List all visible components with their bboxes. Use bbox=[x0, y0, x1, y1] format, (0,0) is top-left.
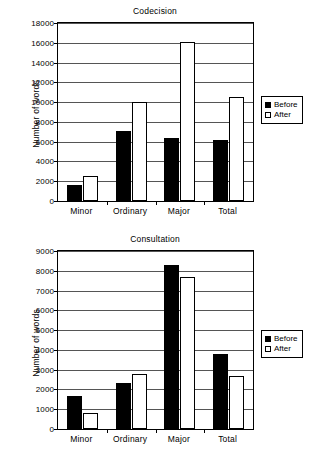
y-tick-label: 6000 bbox=[36, 306, 54, 315]
plot-area-consultation: 0100020003000400050006000700080009000 bbox=[57, 250, 254, 430]
bar-group bbox=[116, 251, 147, 429]
bar-after-total bbox=[229, 376, 244, 429]
bar-before-minor bbox=[67, 185, 82, 201]
legend-codecision: Before After bbox=[261, 96, 303, 124]
x-tick-label: Minor bbox=[70, 434, 92, 444]
legend-item-after: After bbox=[265, 344, 298, 354]
legend-consultation: Before After bbox=[261, 330, 303, 358]
bar-after-minor bbox=[83, 176, 98, 201]
x-tick-label: Total bbox=[218, 206, 237, 216]
bar-after-total bbox=[229, 97, 244, 201]
x-tick-mark bbox=[107, 201, 108, 205]
bar-group bbox=[67, 251, 98, 429]
x-tick-label: Minor bbox=[70, 206, 92, 216]
chart-codecision: Codecision Number of words 0200040006000… bbox=[0, 0, 321, 228]
x-tick-mark bbox=[204, 429, 205, 433]
bar-group bbox=[213, 251, 244, 429]
x-tick-mark bbox=[204, 201, 205, 205]
legend-item-before: Before bbox=[265, 100, 298, 110]
legend-item-after: After bbox=[265, 110, 298, 120]
y-tick-label: 18000 bbox=[31, 19, 54, 28]
y-tick-label: 10000 bbox=[31, 98, 54, 107]
legend-item-before: Before bbox=[265, 334, 298, 344]
bar-before-ordinary bbox=[116, 131, 131, 201]
bar-before-ordinary bbox=[116, 383, 131, 429]
chart-title-codecision: Codecision bbox=[55, 6, 255, 16]
y-tick-mark bbox=[54, 201, 58, 202]
bars-codecision bbox=[58, 23, 253, 201]
legend-swatch-before-icon bbox=[265, 336, 271, 342]
y-tick-label: 12000 bbox=[31, 78, 54, 87]
bar-after-major bbox=[180, 42, 195, 201]
x-tick-label: Ordinary bbox=[113, 206, 147, 216]
y-tick-label: 7000 bbox=[36, 286, 54, 295]
x-tick-mark bbox=[156, 201, 157, 205]
legend-label-after: After bbox=[274, 344, 291, 354]
bar-before-total bbox=[213, 140, 228, 201]
chart-title-consultation: Consultation bbox=[55, 234, 255, 244]
bar-before-total bbox=[213, 354, 228, 429]
bar-after-ordinary bbox=[132, 102, 147, 201]
bar-before-major bbox=[164, 138, 179, 201]
y-tick-label: 16000 bbox=[31, 38, 54, 47]
bars-consultation bbox=[58, 251, 253, 429]
bar-group bbox=[164, 251, 195, 429]
y-tick-label: 9000 bbox=[36, 247, 54, 256]
legend-swatch-after-icon bbox=[265, 112, 271, 118]
y-tick-label: 6000 bbox=[36, 137, 54, 146]
y-tick-label: 4000 bbox=[36, 345, 54, 354]
x-tick-mark bbox=[107, 429, 108, 433]
y-tick-label: 4000 bbox=[36, 157, 54, 166]
chart-consultation: Consultation Number of words 01000200030… bbox=[0, 228, 321, 457]
bar-before-minor bbox=[67, 396, 82, 429]
plot-area-codecision: 0200040006000800010000120001400016000180… bbox=[57, 22, 254, 202]
x-tick-label: Major bbox=[168, 434, 190, 444]
legend-label-after: After bbox=[274, 110, 291, 120]
x-tick-mark bbox=[156, 429, 157, 433]
bar-after-major bbox=[180, 277, 195, 429]
legend-label-before: Before bbox=[274, 100, 298, 110]
bar-group bbox=[213, 23, 244, 201]
legend-label-before: Before bbox=[274, 334, 298, 344]
y-tick-label: 2000 bbox=[36, 385, 54, 394]
y-tick-mark bbox=[54, 429, 58, 430]
bar-after-minor bbox=[83, 413, 98, 429]
bar-group bbox=[164, 23, 195, 201]
y-tick-label: 3000 bbox=[36, 365, 54, 374]
y-tick-label: 1000 bbox=[36, 405, 54, 414]
legend-swatch-after-icon bbox=[265, 346, 271, 352]
y-tick-label: 14000 bbox=[31, 58, 54, 67]
y-tick-label: 2000 bbox=[36, 177, 54, 186]
y-tick-label: 5000 bbox=[36, 326, 54, 335]
x-tick-label: Major bbox=[168, 206, 190, 216]
y-tick-label: 8000 bbox=[36, 117, 54, 126]
bar-before-major bbox=[164, 265, 179, 429]
legend-swatch-before-icon bbox=[265, 102, 271, 108]
x-tick-label: Ordinary bbox=[113, 434, 147, 444]
y-tick-label: 8000 bbox=[36, 266, 54, 275]
bar-group bbox=[67, 23, 98, 201]
x-tick-label: Total bbox=[218, 434, 237, 444]
bar-after-ordinary bbox=[132, 374, 147, 429]
bar-group bbox=[116, 23, 147, 201]
